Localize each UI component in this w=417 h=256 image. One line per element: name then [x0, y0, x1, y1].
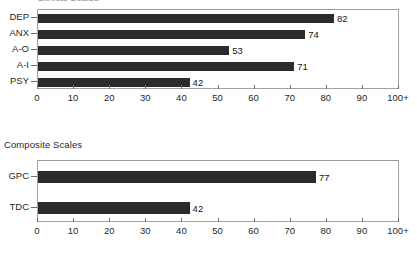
bar-row: 82 — [38, 14, 398, 23]
x-axis-tick-label: 60 — [248, 225, 259, 236]
bar-value-label: 77 — [316, 171, 330, 182]
x-axis-tick — [73, 218, 74, 222]
bar-rows-clinical-scales: 8274537142 — [38, 10, 398, 88]
x-axis-tick — [73, 85, 74, 89]
bar-a-o — [38, 46, 229, 55]
bar-value-label: 71 — [294, 61, 308, 72]
x-axis-tick-label: 90 — [357, 225, 368, 236]
x-axis-tick-label: 60 — [248, 92, 259, 103]
x-axis-tick-label: 0 — [34, 225, 39, 236]
bar-psy — [38, 78, 190, 87]
x-axis-tick-label: 70 — [284, 92, 295, 103]
x-axis-tick-label: 80 — [321, 225, 332, 236]
bar-gpc — [38, 171, 316, 183]
category-tick — [31, 81, 37, 82]
x-axis-tick — [326, 218, 327, 222]
x-axis-tick — [37, 218, 38, 222]
bar-value-label: 42 — [190, 202, 204, 213]
x-axis-tick — [37, 85, 38, 89]
x-axis-tick-label: 50 — [212, 225, 223, 236]
x-axis-tick — [290, 85, 291, 89]
category-label-gpc: GPC — [0, 170, 29, 181]
plot-area-composite-scales: 7742 — [37, 160, 399, 222]
bar-value-label: 82 — [334, 13, 348, 24]
category-tick — [31, 49, 37, 50]
x-axis-tick-label: 90 — [357, 92, 368, 103]
bar-row: 71 — [38, 62, 398, 71]
bar-rows-composite-scales: 7742 — [38, 161, 398, 221]
x-axis-tick-label: 30 — [140, 225, 151, 236]
x-axis-tick-label: 20 — [104, 225, 115, 236]
bar-tdc — [38, 202, 190, 214]
x-axis-tick — [290, 218, 291, 222]
x-axis-tick-label: 50 — [212, 92, 223, 103]
x-axis-tick-label: 20 — [104, 92, 115, 103]
x-axis-tick-label: 100+ — [387, 92, 408, 103]
x-axis-tick — [145, 85, 146, 89]
x-axis-tick-label: 10 — [68, 92, 79, 103]
x-axis-tick — [362, 85, 363, 89]
x-axis-tick — [254, 218, 255, 222]
x-axis-tick — [109, 85, 110, 89]
x-axis-tick — [181, 85, 182, 89]
x-axis-tick-label: 40 — [176, 225, 187, 236]
x-axis-tick — [398, 85, 399, 89]
x-axis-tick-label: 30 — [140, 92, 151, 103]
x-axis-tick-label: 10 — [68, 225, 79, 236]
x-axis-tick — [218, 218, 219, 222]
x-axis-tick — [398, 218, 399, 222]
category-label-a-i: A-I — [0, 59, 29, 70]
category-label-a-o: A-O — [0, 43, 29, 54]
bar-row: 77 — [38, 171, 398, 183]
x-axis-tick — [218, 85, 219, 89]
bar-row: 53 — [38, 46, 398, 55]
category-label-tdc: TDC — [0, 201, 29, 212]
category-label-dep: DEP — [0, 11, 29, 22]
x-axis-tick-label: 80 — [321, 92, 332, 103]
clipped-chart-title: Clinical Scales — [37, 0, 99, 1]
bar-row: 42 — [38, 202, 398, 214]
x-axis-tick — [109, 218, 110, 222]
category-tick — [31, 176, 37, 177]
category-tick — [31, 207, 37, 208]
x-axis-tick-label: 100+ — [387, 225, 408, 236]
category-tick — [31, 17, 37, 18]
x-axis-tick-label: 0 — [34, 92, 39, 103]
plot-area-clinical-scales: 8274537142 — [37, 9, 399, 89]
x-axis-tick-label: 40 — [176, 92, 187, 103]
bar-a-i — [38, 62, 294, 71]
x-axis-tick — [326, 85, 327, 89]
x-axis-tick-label: 70 — [284, 225, 295, 236]
bar-anx — [38, 30, 305, 39]
bar-value-label: 53 — [229, 45, 243, 56]
x-axis-tick — [181, 218, 182, 222]
x-axis-tick — [254, 85, 255, 89]
bar-value-label: 42 — [190, 77, 204, 88]
x-axis-tick — [362, 218, 363, 222]
bar-value-label: 74 — [305, 29, 319, 40]
category-tick — [31, 33, 37, 34]
section-heading-composite-scales: Composite Scales — [4, 139, 82, 150]
category-tick — [31, 65, 37, 66]
x-axis-tick — [145, 218, 146, 222]
bar-row: 74 — [38, 30, 398, 39]
category-label-psy: PSY — [0, 75, 29, 86]
category-label-anx: ANX — [0, 27, 29, 38]
bar-dep — [38, 14, 334, 23]
